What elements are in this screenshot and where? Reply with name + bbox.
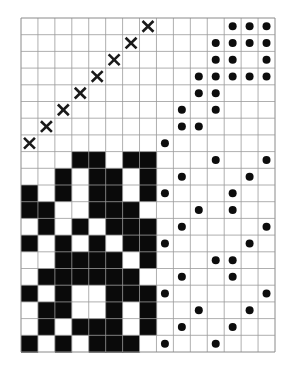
dot-marker — [263, 290, 271, 298]
dot-marker — [246, 239, 254, 247]
matrix-cell-white — [21, 168, 39, 185]
dot-marker — [229, 256, 237, 264]
dot-marker — [178, 106, 186, 114]
dot-marker — [229, 189, 237, 197]
dot-marker — [263, 156, 271, 164]
matrix-cell-white — [72, 335, 90, 352]
matrix-cell-black — [55, 302, 73, 319]
matrix-cell-black — [123, 285, 141, 302]
x-mark — [75, 88, 86, 99]
dot-marker — [161, 139, 169, 147]
matrix-cell-black — [89, 269, 107, 286]
matrix-cell-white — [55, 218, 73, 235]
dot-marker — [195, 206, 203, 214]
matrix-cell-black — [106, 185, 124, 202]
matrix-cell-white — [89, 218, 107, 235]
matrix-cell-white — [55, 202, 73, 219]
matrix-cell-white — [38, 168, 56, 185]
matrix-cell-white — [123, 185, 141, 202]
matrix-cell-white — [89, 302, 107, 319]
dot-marker — [161, 239, 169, 247]
matrix-cell-black — [89, 185, 107, 202]
matrix-cell-white — [38, 235, 56, 252]
matrix-cell-black — [140, 302, 158, 319]
matrix-cell-black — [140, 285, 158, 302]
matrix-cell-white — [55, 152, 73, 169]
matrix-cell-black — [89, 252, 107, 269]
dot-marker — [263, 22, 271, 30]
dot-marker — [263, 72, 271, 80]
matrix-cell-black — [21, 235, 39, 252]
matrix-cell-black — [140, 152, 158, 169]
dot-marker — [212, 56, 220, 64]
x-mark — [126, 38, 137, 49]
dot-marker — [178, 323, 186, 331]
matrix-cell-black — [89, 235, 107, 252]
matrix-cell-black — [72, 252, 90, 269]
matrix-cell-black — [140, 218, 158, 235]
matrix-cell-black — [72, 319, 90, 336]
dot-marker — [246, 306, 254, 314]
dot-marker — [263, 56, 271, 64]
matrix-cell-black — [55, 335, 73, 352]
dot-marker — [212, 106, 220, 114]
matrix-cell-black — [55, 235, 73, 252]
matrix-cell-black — [21, 202, 39, 219]
matrix-cell-black — [55, 252, 73, 269]
dot-marker — [212, 256, 220, 264]
matrix-cell-white — [72, 235, 90, 252]
dot-marker — [161, 340, 169, 348]
matrix-cell-black — [106, 168, 124, 185]
matrix-cell-black — [55, 285, 73, 302]
matrix-cell-black — [89, 319, 107, 336]
matrix-cell-black — [38, 202, 56, 219]
matrix-cell-black — [106, 218, 124, 235]
matrix-cell-white — [140, 269, 158, 286]
matrix-cell-white — [21, 319, 39, 336]
matrix-cell-black — [140, 185, 158, 202]
matrix-cell-black — [106, 302, 124, 319]
matrix-cell-black — [106, 269, 124, 286]
matrix-cell-white — [21, 218, 39, 235]
dot-marker — [212, 340, 220, 348]
matrix-cell-black — [55, 185, 73, 202]
matrix-cell-white — [72, 202, 90, 219]
dot-marker — [161, 290, 169, 298]
dot-marker — [229, 39, 237, 47]
matrix-cell-white — [140, 202, 158, 219]
dot-marker — [229, 206, 237, 214]
matrix-cell-black — [123, 202, 141, 219]
dot-marker — [178, 223, 186, 231]
matrix-cell-black — [140, 319, 158, 336]
matrix-cell-white — [21, 252, 39, 269]
x-mark — [109, 54, 120, 65]
matrix-cell-black — [123, 335, 141, 352]
matrix-cell-white — [38, 152, 56, 169]
dot-marker — [263, 39, 271, 47]
matrix-figure — [0, 0, 296, 374]
dot-marker — [246, 72, 254, 80]
matrix-cell-black — [38, 319, 56, 336]
matrix-cell-black — [106, 202, 124, 219]
matrix-svg-canvas — [0, 0, 296, 374]
matrix-cell-black — [21, 285, 39, 302]
matrix-cell-black — [89, 202, 107, 219]
matrix-cell-black — [106, 252, 124, 269]
matrix-cell-white — [123, 302, 141, 319]
matrix-cell-black — [140, 235, 158, 252]
matrix-cell-black — [38, 302, 56, 319]
matrix-cell-black — [72, 152, 90, 169]
dot-marker — [229, 323, 237, 331]
x-mark — [41, 121, 52, 132]
matrix-cell-white — [72, 285, 90, 302]
matrix-cell-black — [106, 335, 124, 352]
matrix-cell-black — [123, 218, 141, 235]
dot-marker — [212, 156, 220, 164]
dot-marker — [246, 39, 254, 47]
matrix-cell-black — [89, 168, 107, 185]
matrix-cell-black — [89, 335, 107, 352]
matrix-cell-white — [38, 252, 56, 269]
matrix-cell-black — [140, 168, 158, 185]
matrix-cell-black — [55, 168, 73, 185]
dot-marker — [178, 173, 186, 181]
